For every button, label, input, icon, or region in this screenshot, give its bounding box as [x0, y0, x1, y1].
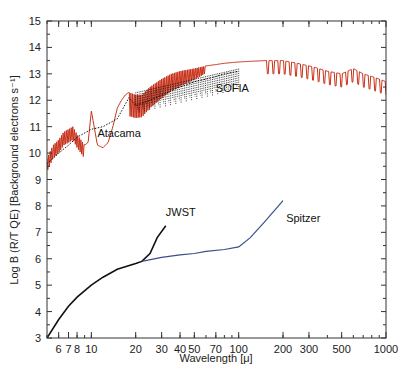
x-tick-label: 10 [85, 343, 97, 355]
x-tick-label: 200 [274, 343, 292, 355]
y-tick-label: 11 [30, 121, 41, 133]
labels: Wavelength [μ] Log B (R/T QE) [Backgroun… [8, 75, 321, 364]
annotation-jwst: JWST [166, 206, 196, 218]
x-tick-label: 7 [65, 343, 71, 355]
x-tick-label: 1000 [374, 343, 398, 355]
y-tick-label: 14 [29, 41, 41, 53]
series-jwst [47, 226, 166, 338]
x-tick-label: 6 [56, 343, 62, 355]
x-tick-label: 8 [74, 343, 80, 355]
x-tick-label: 500 [332, 343, 350, 355]
x-tick-label: 300 [300, 343, 318, 355]
x-tick-label: 20 [130, 343, 142, 355]
y-tick-label: 9 [35, 174, 41, 186]
plot-frame [47, 21, 386, 338]
annotation-sofia: SOFIA [216, 82, 250, 94]
y-tick-label: 7 [35, 226, 41, 238]
axes: 3456789101112131415678102030405070100200… [29, 15, 398, 355]
y-tick-label: 10 [29, 147, 41, 159]
y-tick-label: 12 [29, 94, 41, 106]
y-tick-label: 13 [29, 68, 41, 80]
chart: 3456789101112131415678102030405070100200… [0, 0, 405, 383]
y-tick-label: 3 [35, 332, 41, 344]
series-spitzer [142, 201, 283, 262]
y-tick-label: 5 [35, 279, 41, 291]
series-atacama [47, 61, 386, 170]
y-axis-title: Log B (R/T QE) [Background electrons s⁻¹… [8, 75, 20, 284]
series-sofia [47, 71, 239, 164]
x-tick-label: 30 [156, 343, 168, 355]
y-tick-label: 15 [29, 15, 41, 27]
y-tick-label: 6 [35, 253, 41, 265]
plot-area [47, 61, 386, 338]
y-tick-label: 8 [35, 200, 41, 212]
annotation-atacama: Atacama [97, 127, 141, 139]
y-tick-label: 4 [35, 306, 41, 318]
x-axis-title: Wavelength [μ] [179, 352, 252, 364]
annotation-spitzer: Spitzer [286, 212, 321, 224]
